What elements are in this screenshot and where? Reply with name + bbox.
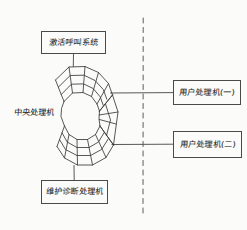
node-call-system-label: 激活呼叫系统	[49, 39, 99, 47]
node-user-processor-2[interactable]: 用户处理机(二)	[173, 131, 242, 158]
node-call-system[interactable]: 激活呼叫系统	[41, 31, 106, 54]
node-user-processor-2-label: 用户处理机(二)	[179, 141, 236, 149]
node-central-processor-label: 中央处理机	[14, 106, 55, 117]
central-processor-ring	[56, 67, 119, 166]
node-maintenance-processor-label: 维护诊断处理机	[45, 188, 103, 196]
node-user-processor-1-label: 用户处理机(一)	[179, 89, 236, 97]
node-maintenance-processor[interactable]: 维护诊断处理机	[41, 180, 108, 204]
node-user-processor-1[interactable]: 用户处理机(一)	[173, 80, 241, 105]
diagram-canvas: 激活呼叫系统 维护诊断处理机 用户处理机(一) 用户处理机(二) 中央处理机	[0, 0, 247, 230]
